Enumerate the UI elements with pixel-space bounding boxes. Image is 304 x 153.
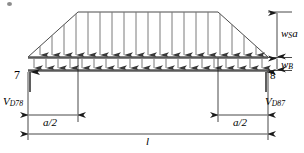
node-label-8: 8 bbox=[270, 70, 276, 81]
dimension-label-a-half-right: a/2 bbox=[233, 117, 247, 128]
distributed-load-arrows-bottom bbox=[34, 59, 262, 68]
label-reaction-left: VD78 bbox=[3, 96, 23, 108]
label-beam-load: wB bbox=[281, 59, 293, 71]
label-reaction-right: VD87 bbox=[265, 96, 285, 108]
load-diagram-figure: wSa wB 7 8 VD78 VD87 a/2 a/2 l bbox=[0, 0, 304, 153]
dimension-label-a-half-left: a/2 bbox=[43, 117, 57, 128]
node-label-7: 7 bbox=[14, 69, 20, 81]
diagram-canvas bbox=[0, 0, 304, 153]
label-snow-load: wSa bbox=[281, 28, 298, 40]
distributed-load-arrows-top bbox=[40, 12, 256, 55]
dimension-label-span: l bbox=[146, 136, 149, 147]
reaction-arrows bbox=[30, 72, 266, 92]
